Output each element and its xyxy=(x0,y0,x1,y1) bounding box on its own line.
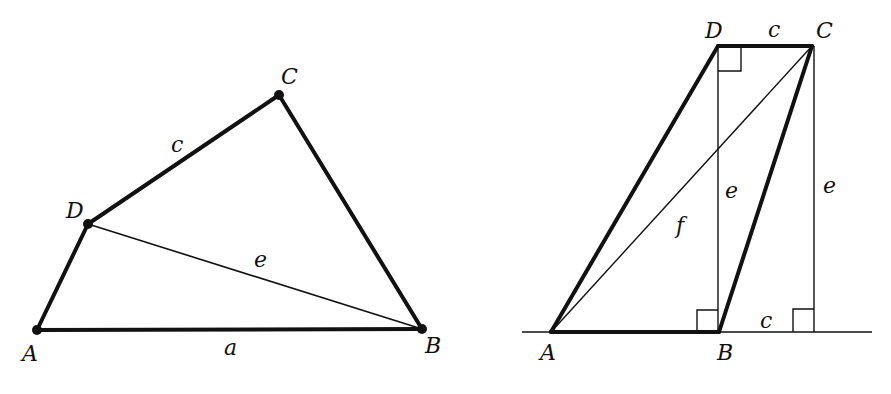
side-BC xyxy=(279,95,422,329)
label-A: A xyxy=(538,340,556,365)
right-angle-marker-C-foot xyxy=(793,309,814,332)
right-angle-marker-B xyxy=(697,310,718,332)
label-D: D xyxy=(704,18,723,43)
label-height-e-outer: e xyxy=(823,173,836,198)
left-figure: A B C D a c e xyxy=(20,64,441,366)
label-C: C xyxy=(281,64,298,89)
label-side-a: a xyxy=(224,335,237,360)
label-C: C xyxy=(816,18,833,43)
label-height-e-inner: e xyxy=(725,178,738,203)
label-A: A xyxy=(20,341,38,366)
label-B: B xyxy=(424,333,441,358)
label-D: D xyxy=(65,198,84,223)
vertex-D-point xyxy=(83,219,93,229)
diagonal-AC-f xyxy=(551,46,812,332)
side-AD xyxy=(551,46,718,332)
label-side-c-bottom: c xyxy=(760,308,772,333)
label-B: B xyxy=(716,340,733,365)
side-AB xyxy=(37,329,422,330)
label-side-c: c xyxy=(171,132,183,157)
label-diagonal-e: e xyxy=(254,247,267,272)
vertex-A-point xyxy=(32,325,42,335)
diagonal-DB xyxy=(88,224,422,329)
label-diagonal-f: f xyxy=(674,213,688,238)
vertex-C-point xyxy=(274,90,284,100)
label-side-c-top: c xyxy=(768,17,780,42)
side-CD xyxy=(88,95,279,224)
right-angle-marker-D xyxy=(718,46,741,71)
right-figure: D c C e e f c A B xyxy=(522,17,872,365)
geometry-diagram: A B C D a c e D c C e e f c A B xyxy=(0,0,891,394)
side-DA xyxy=(37,224,88,330)
